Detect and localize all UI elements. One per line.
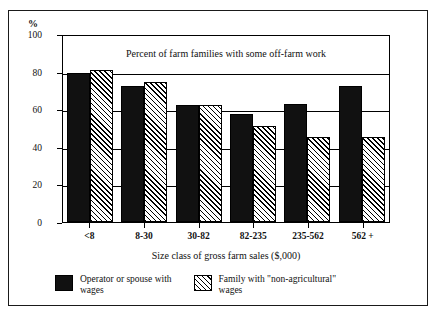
legend-item-operator-spouse: Operator or spouse with wages [55, 274, 172, 296]
x-tick-label: 30-82 [171, 231, 226, 241]
x-tick-label: 82-235 [226, 231, 281, 241]
x-tick-mark [199, 223, 200, 228]
bar [230, 114, 253, 222]
bar [339, 86, 362, 222]
bar-group [172, 36, 226, 222]
legend-label-line1: Operator or spouse with [80, 274, 172, 284]
bar-group [226, 36, 280, 222]
bar [307, 137, 330, 222]
y-tick-mark-0 [57, 223, 62, 224]
x-tick-mark [308, 223, 309, 228]
x-tick-mark [253, 223, 254, 228]
chart-figure: % 100 80 60 40 20 0 Percent of farm fami… [0, 0, 438, 317]
chart-title: Percent of farm families with some off-f… [62, 48, 390, 59]
bar [90, 70, 113, 222]
x-tick-label: <8 [62, 231, 117, 241]
x-tick-label: 562 + [335, 231, 390, 241]
bar [199, 105, 222, 222]
bar [176, 105, 199, 222]
x-tick-mark [363, 223, 364, 228]
y-axis-unit-label: % [28, 18, 38, 29]
x-axis-title: Size class of gross farm sales ($,000) [62, 250, 390, 261]
x-tick-mark [89, 223, 90, 228]
x-tick-mark [144, 223, 145, 228]
bar-group [335, 36, 389, 222]
y-tick-label-40: 40 [12, 144, 42, 154]
bar [67, 73, 90, 222]
y-tick-label-0: 0 [12, 219, 42, 229]
x-tick-label: 235-562 [281, 231, 336, 241]
bar [362, 137, 385, 222]
legend-label-line1: Family with "non-agricultural" [219, 274, 337, 284]
bar [121, 86, 144, 222]
bar [144, 82, 167, 222]
y-tick-label-100: 100 [12, 31, 42, 41]
bar-group [117, 36, 171, 222]
chart-legend: Operator or spouse with wages Family wit… [55, 274, 395, 296]
legend-item-family-nonagricultural: Family with "non-agricultural" wages [194, 274, 337, 296]
legend-label-family-nonagricultural: Family with "non-agricultural" wages [219, 274, 337, 296]
legend-label-line2: wages [219, 285, 243, 295]
y-tick-label-20: 20 [12, 181, 42, 191]
legend-label-line2: wages [80, 285, 104, 295]
legend-swatch-solid-icon [55, 275, 73, 291]
y-tick-label-80: 80 [12, 69, 42, 79]
legend-label-operator-spouse: Operator or spouse with wages [80, 274, 172, 296]
plot-area [62, 35, 390, 223]
x-tick-label: 8-30 [117, 231, 172, 241]
bar [284, 104, 307, 222]
y-tick-label-60: 60 [12, 106, 42, 116]
bar-group [63, 36, 117, 222]
legend-swatch-hatch-icon [194, 275, 212, 291]
bar-group [280, 36, 334, 222]
bar [253, 126, 276, 222]
bar-groups [63, 36, 389, 222]
